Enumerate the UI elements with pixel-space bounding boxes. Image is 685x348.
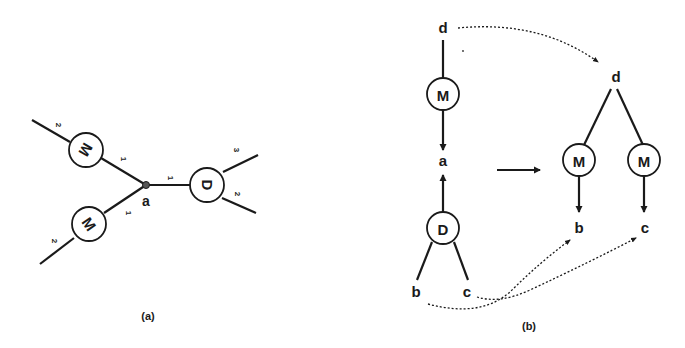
right-node-m-left-label: M	[573, 153, 586, 170]
node-m-bottom: M	[72, 207, 106, 241]
right-leaf-c: c	[641, 219, 649, 236]
stray-mark	[462, 50, 464, 52]
mapping-c-to-c	[477, 238, 636, 299]
left-node-d-label: D	[438, 221, 449, 238]
edge-root-to-m-left	[584, 89, 611, 145]
edge-m-top-outer	[32, 120, 70, 142]
left-node-d: D	[427, 212, 459, 244]
left-top-label: d	[438, 19, 447, 36]
left-leaf-b: b	[411, 283, 420, 300]
port-label-d-out-top: 3	[232, 148, 241, 153]
port-label-d-input: 1	[166, 176, 175, 181]
port-label-m-top-inner: 1	[119, 157, 128, 162]
junction-label: a	[142, 193, 150, 209]
panel-a: M M D a 2 1 1 2 1 3 2 (a)	[32, 120, 258, 322]
port-label-m-bottom-inner: 1	[124, 211, 133, 216]
panel-b: d M a D b c d M M b c	[411, 19, 660, 332]
left-node-m: M	[427, 78, 459, 110]
edge-m-top-to-a	[101, 158, 146, 185]
port-label-m-bottom-outer: 2	[50, 239, 59, 244]
caption-a: (a)	[141, 310, 155, 322]
edge-d-to-c	[454, 242, 468, 280]
edge-m-bottom-to-a	[104, 185, 146, 213]
port-label-m-top-outer: 2	[54, 123, 63, 128]
caption-b: (b)	[522, 320, 536, 332]
right-node-m-right-label: M	[638, 153, 651, 170]
port-label-d-out-bottom: 2	[233, 192, 242, 197]
edge-d-out-top	[223, 155, 258, 172]
edge-root-to-m-right	[617, 89, 643, 145]
left-node-m-label: M	[437, 87, 450, 104]
right-node-m-right: M	[628, 144, 660, 176]
mapping-d-to-d	[458, 27, 598, 62]
node-d-label: D	[199, 180, 216, 191]
right-leaf-b: b	[574, 219, 583, 236]
junction-point	[143, 182, 150, 189]
node-m-top: M	[69, 133, 103, 167]
left-mid-label: a	[439, 152, 448, 169]
right-node-m-left: M	[563, 144, 595, 176]
right-root-label: d	[611, 68, 620, 85]
edge-d-to-b	[417, 242, 432, 280]
node-d: D	[190, 168, 224, 202]
mapping-b-to-b	[428, 240, 570, 309]
edge-d-out-bottom	[222, 198, 256, 213]
diagram-canvas: M M D a 2 1 1 2 1 3 2 (a) d M a	[0, 0, 685, 348]
left-leaf-c: c	[463, 283, 471, 300]
